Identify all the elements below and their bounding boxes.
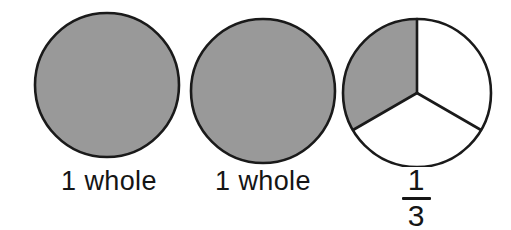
- circle-3-fraction-label: 1 3: [339, 165, 493, 230]
- circle-2-label: 1 whole: [186, 168, 340, 195]
- figure-circle-2: 1 whole: [186, 14, 340, 168]
- circle-1-svg: [30, 8, 184, 162]
- circle-2-svg: [186, 14, 340, 168]
- whole-circle-fill: [191, 19, 335, 163]
- circle-3-svg: [339, 13, 493, 167]
- fraction-numerator: 1: [408, 165, 425, 196]
- fraction-denominator: 3: [408, 201, 425, 230]
- circle-3-shape: [339, 13, 493, 167]
- whole-circle-fill: [35, 13, 179, 157]
- circle-1-shape: [30, 8, 184, 162]
- circle-1-label: 1 whole: [32, 168, 186, 195]
- circle-2-shape: [186, 14, 340, 168]
- figure-circle-3: 1 3: [339, 13, 493, 167]
- fraction-diagram: 1 whole 1 whole: [0, 0, 511, 230]
- figure-circle-1: 1 whole: [30, 8, 184, 162]
